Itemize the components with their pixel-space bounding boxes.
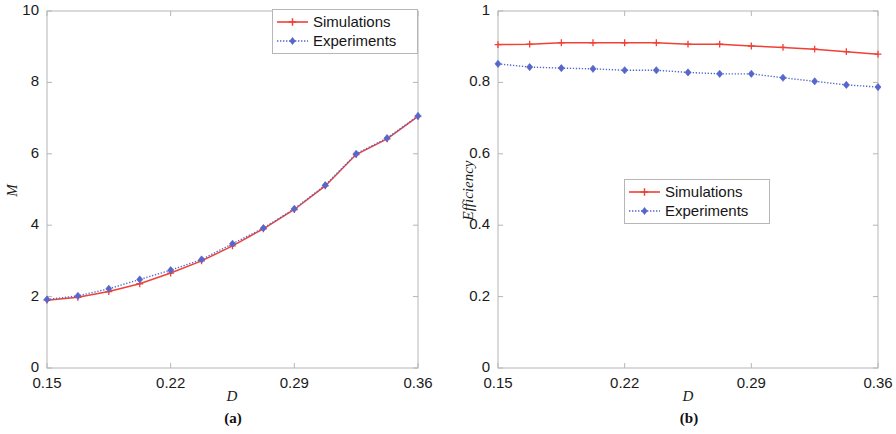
- x-axis-label-b: D: [658, 388, 718, 405]
- x-tick-label: 0.15: [468, 374, 528, 391]
- legend-line-simulations-icon: [628, 185, 661, 199]
- y-tick-label: 2: [0, 287, 39, 304]
- x-tick-label: 0.15: [17, 374, 77, 391]
- legend-label-experiments: Experiments: [313, 33, 396, 49]
- x-tick-label: 0.22: [595, 374, 655, 391]
- y-tick-label: 0: [0, 358, 39, 375]
- panel-b: Efficiency D (b) Simulations: [448, 0, 896, 434]
- legend-line-simulations-icon: [276, 15, 309, 29]
- y-tick-label: 6: [0, 144, 39, 161]
- x-tick-label: 0.29: [721, 374, 781, 391]
- legend-entry-experiments: Experiments: [628, 201, 765, 220]
- legend-entry-experiments: Experiments: [276, 31, 413, 50]
- panel-a: M D (a) Simulations: [0, 0, 448, 434]
- legend-entry-simulations: Simulations: [276, 12, 413, 31]
- panel-caption-b: (b): [659, 410, 719, 427]
- x-tick-label: 0.36: [388, 374, 448, 391]
- y-tick-label: 0.8: [440, 72, 490, 89]
- legend-a: Simulations Experiments: [272, 9, 418, 54]
- legend-label-experiments: Experiments: [665, 203, 748, 219]
- y-tick-label: 8: [0, 72, 39, 89]
- x-axis-label-a: D: [202, 388, 262, 405]
- legend-b: Simulations Experiments: [624, 179, 770, 224]
- x-tick-label: 0.22: [141, 374, 201, 391]
- legend-entry-simulations: Simulations: [628, 182, 765, 201]
- legend-line-experiments-icon: [276, 34, 309, 48]
- y-axis-label-b: Efficiency: [460, 161, 477, 221]
- plot-area-a: [0, 0, 448, 434]
- x-tick-label: 0.36: [848, 374, 896, 391]
- legend-label-simulations: Simulations: [313, 14, 391, 30]
- x-tick-label: 0.29: [264, 374, 324, 391]
- y-tick-label: 0: [440, 358, 490, 375]
- panel-caption-a: (a): [203, 410, 263, 427]
- legend-label-simulations: Simulations: [665, 184, 743, 200]
- y-tick-label: 0.2: [440, 287, 490, 304]
- y-tick-label: 1: [440, 1, 490, 18]
- y-axis-label-a: M: [4, 184, 21, 197]
- y-tick-label: 0.6: [440, 144, 490, 161]
- y-tick-label: 4: [0, 215, 39, 232]
- y-tick-label: 0.4: [440, 215, 490, 232]
- y-tick-label: 10: [0, 1, 39, 18]
- legend-line-experiments-icon: [628, 204, 661, 218]
- figure-two-panel-chart: M D (a) Simulations: [0, 0, 896, 434]
